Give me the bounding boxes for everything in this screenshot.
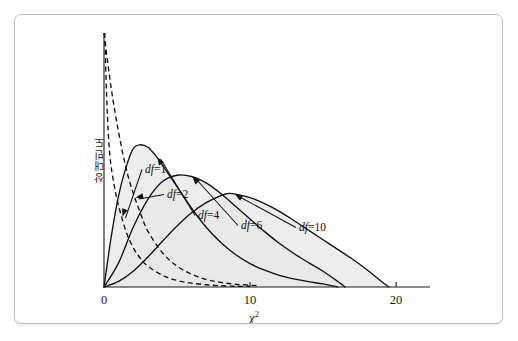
x-ticklabel-10: 10 bbox=[244, 293, 257, 307]
x-ticklabel-20: 20 bbox=[390, 293, 403, 307]
series-label-df1: df=1 bbox=[145, 163, 166, 176]
series-label-df10: df=10 bbox=[299, 221, 326, 234]
x-ticklabel-0: 0 bbox=[101, 293, 107, 307]
x-axis-title: χ2 bbox=[247, 309, 259, 324]
chi-square-distribution-plot: 01020 df=1df=2df=4df=6df=10 χ2 bbox=[15, 15, 503, 324]
x-axis-ticklabels: 01020 bbox=[101, 293, 402, 307]
figure-frame: 01020 df=1df=2df=4df=6df=10 χ2 상대빈도 bbox=[14, 14, 503, 324]
series-label-df4: df=4 bbox=[198, 209, 219, 222]
series-label-df6: df=6 bbox=[241, 219, 262, 232]
